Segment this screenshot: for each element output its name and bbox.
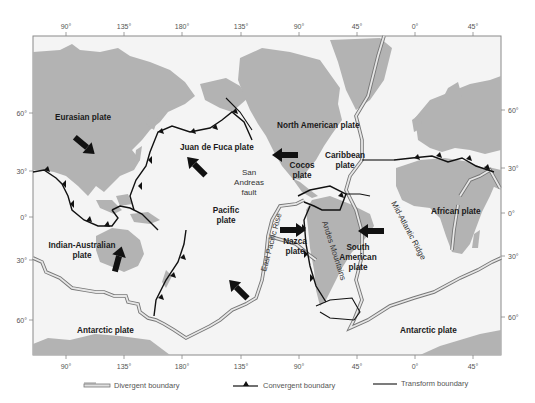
label-nazca-plate: plate xyxy=(285,247,305,256)
label-san-andreas-fault: San xyxy=(242,168,256,177)
lat-label-left: 0° xyxy=(20,214,27,221)
label-pacific-plate: plate xyxy=(216,216,236,225)
label-caribbean-plate: plate xyxy=(335,161,355,170)
lon-label-bottom: 135° xyxy=(234,363,249,370)
lon-label-bottom: 45° xyxy=(468,363,479,370)
legend-transform-label: Transform boundary xyxy=(401,379,469,388)
lon-label-bottom: 0° xyxy=(412,363,419,370)
label-north-american-plate: North American plate xyxy=(277,121,360,130)
label-indian-australian-plate: Indian-Australian xyxy=(49,241,116,250)
lat-label-right: 0° xyxy=(508,210,515,217)
label-juan-de-fuca-plate: Juan de Fuca plate xyxy=(180,143,254,152)
label-antarctic-plate-west: Antarctic plate xyxy=(77,326,134,335)
label-indian-australian-plate: plate xyxy=(72,251,92,260)
label-san-andreas-fault: fault xyxy=(241,188,257,197)
label-antarctic-plate-east: Antarctic plate xyxy=(400,326,457,335)
lat-label-right: 60° xyxy=(508,107,519,114)
lon-label-top: 0° xyxy=(412,23,419,30)
lon-label-bottom: 135° xyxy=(117,363,132,370)
label-pacific-plate: Pacific xyxy=(213,206,240,215)
legend-divergent-symbol xyxy=(84,383,110,387)
label-south-american-plate: plate xyxy=(348,263,368,272)
lat-label-right: 60° xyxy=(508,314,519,321)
label-caribbean-plate: Caribbean xyxy=(325,151,365,160)
lon-label-top: 135° xyxy=(117,23,132,30)
lon-label-top: 90° xyxy=(294,23,305,30)
lon-label-bottom: 180° xyxy=(175,363,190,370)
label-south-american-plate: South xyxy=(346,243,369,252)
label-nazca-plate: Nazca xyxy=(283,237,307,246)
lon-label-bottom: 45° xyxy=(352,363,363,370)
lon-label-top: 135° xyxy=(234,23,249,30)
lat-label-left: 60° xyxy=(16,110,27,117)
lon-label-top: 90° xyxy=(61,23,72,30)
lat-label-left: 60° xyxy=(16,317,27,324)
label-south-american-plate: American xyxy=(339,253,376,262)
lat-label-right: 30° xyxy=(508,165,519,172)
label-cocos-plate: Cocos xyxy=(289,161,314,170)
lon-label-top: 180° xyxy=(175,23,190,30)
lat-label-right: 30° xyxy=(508,253,519,260)
legend-convergent-symbol xyxy=(233,381,258,386)
lon-label-top: 45° xyxy=(352,23,363,30)
lon-label-bottom: 90° xyxy=(294,363,305,370)
label-african-plate: African plate xyxy=(431,207,481,216)
legend-convergent-label: Convergent boundary xyxy=(263,381,335,390)
label-cocos-plate: plate xyxy=(292,171,312,180)
legend: Divergent boundary Convergent boundary T… xyxy=(84,379,469,390)
label-eurasian-plate: Eurasian plate xyxy=(55,113,111,122)
lat-label-left: 30° xyxy=(16,168,27,175)
lon-label-top: 45° xyxy=(468,23,479,30)
tectonic-plate-map: 90° 135° 180° 135° 90° 45° 0° 45° 90° 13… xyxy=(0,0,535,403)
legend-divergent-label: Divergent boundary xyxy=(114,381,180,390)
lon-label-bottom: 90° xyxy=(61,363,72,370)
label-san-andreas-fault: Andreas xyxy=(234,178,264,187)
lat-label-left: 30° xyxy=(16,257,27,264)
